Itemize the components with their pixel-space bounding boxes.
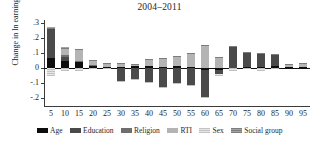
bar-segment-education (229, 46, 237, 67)
bar-segment-sex (117, 81, 125, 82)
bar-segment-social-group (131, 64, 139, 65)
bar-group (243, 20, 251, 106)
chart-legend: AgeEducationReligionRTISexSocial group (0, 126, 319, 135)
bar-group (75, 20, 83, 106)
chart-title: 2004–2011 (0, 2, 319, 12)
bar-group (131, 20, 139, 106)
y-tick-mark (41, 98, 44, 99)
bar-segment-rti (117, 63, 125, 67)
bar-group (271, 20, 279, 106)
bar-segment-religion (89, 65, 97, 66)
bar-segment-rti (89, 60, 97, 64)
bar-segment-sex (103, 68, 111, 69)
bar-segment-social-group (229, 46, 237, 47)
legend-item-rti[interactable]: RTI (167, 126, 192, 135)
bar-segment-age (61, 61, 69, 68)
bar-segment-rti (159, 58, 167, 66)
bar-segment-rti (103, 64, 111, 67)
legend-item-sex[interactable]: Sex (199, 126, 224, 135)
bar-segment-social-group (299, 63, 307, 64)
bar-segment-sex (229, 68, 237, 70)
bar-segment-sex (243, 68, 251, 69)
bar-segment-social-group (243, 52, 251, 53)
bar-group (145, 20, 153, 106)
legend-item-social[interactable]: Social group (231, 126, 283, 135)
bar-segment-sex (257, 68, 265, 70)
bar-group (229, 20, 237, 106)
bar-segment-rti (285, 64, 293, 67)
bar-segment-sex (201, 97, 209, 99)
bar-group (61, 20, 69, 106)
bar-segment-education (131, 68, 139, 78)
legend-item-age[interactable]: Age (37, 126, 63, 135)
bar-segment-education (159, 68, 167, 87)
plot-area: .3.2.10-.1-.2 (44, 20, 310, 106)
y-tick-mark (41, 53, 44, 54)
bar-segment-education (47, 29, 55, 58)
bar-segment-rti (215, 58, 223, 68)
bar-segment-rti (187, 54, 195, 67)
legend-item-education[interactable]: Education (70, 126, 114, 135)
bar-segment-social-group (201, 45, 209, 46)
bar-segment-education (145, 68, 153, 82)
bar-segment-education (61, 57, 69, 62)
x-tick-label: 95 (293, 110, 313, 118)
bar-segment-social-group (103, 63, 111, 64)
bar-segment-sex (131, 79, 139, 80)
bar-segment-social-group (145, 59, 153, 60)
bar-group (257, 20, 265, 106)
y-tick-label: .1 (17, 49, 39, 57)
bar-segment-sex (271, 68, 279, 69)
bar-segment-rti (299, 64, 307, 67)
bar-group (173, 20, 181, 106)
bar-segment-social-group (285, 64, 293, 65)
bar-segment-age (285, 67, 293, 68)
bar-group (117, 20, 125, 106)
bar-segment-rti (173, 57, 181, 66)
y-tick-mark (41, 23, 44, 24)
bar-segment-social-group (215, 57, 223, 58)
legend-item-label: Sex (213, 126, 224, 135)
bar-group (285, 20, 293, 106)
y-tick-label: .2 (17, 34, 39, 42)
bar-segment-social-group (89, 60, 97, 61)
y-tick-mark (41, 38, 44, 39)
bar-segment-sex (159, 87, 167, 88)
bar-segment-sex (187, 85, 195, 86)
bar-group (215, 20, 223, 106)
bar-segment-social-group (117, 63, 125, 64)
y-tick-label: -.1 (17, 79, 39, 87)
bar-group (201, 20, 209, 106)
bar-segment-social-group (47, 27, 55, 29)
y-axis-line (44, 20, 45, 106)
legend-swatch-icon (167, 128, 178, 133)
chart-figure: 2004–2011 Change in ln earnings .3.2.10-… (0, 0, 319, 148)
legend-item-label: Religion (134, 126, 160, 135)
bar-segment-education (257, 54, 265, 67)
bar-group (299, 20, 307, 106)
bar-segment-social-group (257, 53, 265, 54)
bar-segment-social-group (61, 47, 69, 49)
bar-segment-education (117, 68, 125, 81)
legend-swatch-icon (37, 128, 48, 133)
bar-group (103, 20, 111, 106)
legend-item-label: RTI (180, 126, 192, 135)
legend-item-label: Age (50, 126, 63, 135)
y-tick-mark (41, 83, 44, 84)
bar-segment-age (47, 58, 55, 68)
bar-segment-education (201, 70, 209, 97)
bar-group (89, 20, 97, 106)
bar-segment-social-group (75, 49, 83, 50)
legend-item-religion[interactable]: Religion (121, 126, 160, 135)
bar-segment-age (299, 67, 307, 68)
bar-segment-education (243, 53, 251, 67)
bar-segment-rti (75, 50, 83, 61)
legend-swatch-icon (121, 128, 132, 133)
bar-segment-education (271, 55, 279, 67)
y-tick-mark (41, 68, 44, 69)
bar-segment-rti (145, 60, 153, 66)
y-tick-label: .3 (17, 19, 39, 27)
bar-group (47, 20, 55, 106)
bar-group (187, 20, 195, 106)
bar-segment-sex (215, 74, 223, 76)
